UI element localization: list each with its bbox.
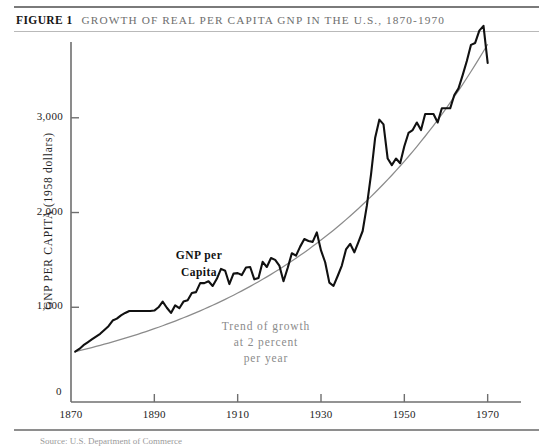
x-axis-ticks <box>154 394 487 402</box>
x-tick-label: 1970 <box>458 408 518 420</box>
x-tick-label: 1950 <box>374 408 434 420</box>
trend-annotation-line1: Trend of growth <box>196 318 336 334</box>
chart-plot-area: GNP PER CAPITA (1958 dollars) 1,0002,000… <box>0 0 553 446</box>
footer-rule <box>14 429 539 431</box>
series-annotation: GNP per Capita <box>154 247 244 281</box>
gnp-per-capita-series <box>75 26 488 352</box>
source-note: Source: U.S. Department of Commerce <box>40 436 540 446</box>
chart-svg <box>0 0 553 446</box>
y-tick-label: 2,000 <box>19 205 63 217</box>
figure-root: FIGURE 1GROWTH OF REAL PER CAPITA GNP IN… <box>0 0 553 446</box>
origin-zero-label: 0 <box>56 385 62 397</box>
x-tick-label: 1870 <box>41 408 101 420</box>
x-tick-label: 1910 <box>208 408 268 420</box>
y-tick-label: 1,000 <box>19 299 63 311</box>
trend-line-series <box>75 44 488 351</box>
series-annotation-line1: GNP per <box>154 247 244 264</box>
trend-annotation: Trend of growth at 2 percent per year <box>196 318 336 366</box>
x-tick-label: 1890 <box>124 408 184 420</box>
x-tick-label: 1930 <box>291 408 351 420</box>
y-tick-label: 3,000 <box>19 110 63 122</box>
y-axis-ticks <box>71 118 79 307</box>
trend-annotation-line3: per year <box>196 350 336 366</box>
trend-annotation-line2: at 2 percent <box>196 334 336 350</box>
series-annotation-line2: Capita <box>154 264 244 281</box>
